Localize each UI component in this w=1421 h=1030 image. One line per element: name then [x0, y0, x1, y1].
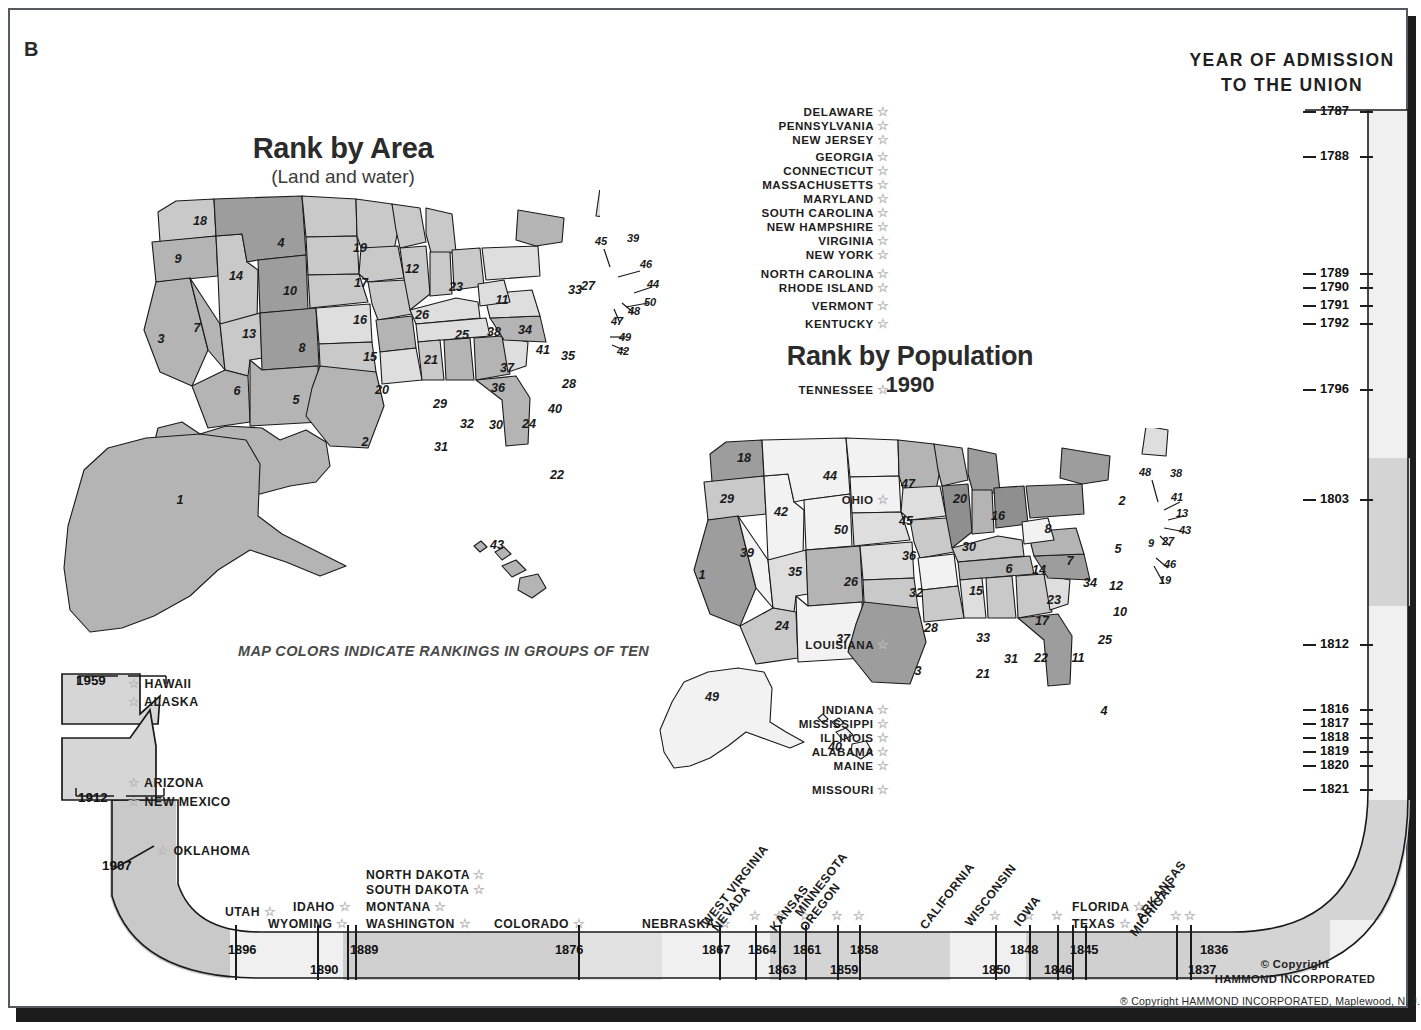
union-admission-year: 1803 — [1320, 491, 1349, 506]
star-icon: ☆ — [877, 298, 890, 313]
bottom-admission-year: 1846 — [1044, 962, 1072, 977]
star-icon: ☆ — [877, 219, 890, 234]
bottom-admission-year: 1859 — [830, 962, 858, 977]
union-tick-left — [1303, 709, 1316, 711]
bottom-state-name: WYOMING ☆ — [268, 916, 349, 931]
union-state-name: NEW YORK ☆ — [806, 247, 890, 262]
union-tick-right — [1360, 156, 1373, 158]
union-tick-right — [1360, 111, 1373, 113]
bottom-state-name: NORTH DAKOTA ☆ — [366, 867, 486, 882]
star-icon: ☆ — [877, 382, 890, 397]
union-admission-year: 1817 — [1320, 715, 1349, 730]
union-state-name: NORTH CAROLINA ☆ — [761, 266, 890, 281]
union-state-name: TENNESSEE ☆ — [798, 382, 890, 397]
union-tick-left — [1303, 389, 1316, 391]
star-icon: ☆ — [877, 104, 890, 119]
bottom-state-name: WASHINGTON ☆ — [366, 916, 471, 931]
union-state-name: SOUTH CAROLINA ☆ — [761, 205, 890, 220]
star-icon: ☆ — [459, 916, 472, 931]
union-tick-right — [1360, 389, 1373, 391]
bottom-admission-year: 1896 — [228, 942, 256, 957]
star-icon: ☆ — [877, 702, 890, 717]
union-tick-right — [1360, 499, 1373, 501]
union-tick-right — [1360, 789, 1373, 791]
star-icon: ☆ — [877, 149, 890, 164]
bottom-divider — [1176, 925, 1178, 980]
union-state-name: GEORGIA ☆ — [815, 149, 890, 164]
union-state-name: NEW JERSEY ☆ — [792, 132, 890, 147]
union-tick-right — [1360, 737, 1373, 739]
union-state-name: OHIO ☆ — [842, 492, 890, 507]
union-state-name: VERMONT ☆ — [812, 298, 890, 313]
union-admission-year: 1816 — [1320, 701, 1349, 716]
union-tick-left — [1303, 499, 1316, 501]
star-icon: ☆ — [749, 908, 762, 923]
union-tick-left — [1303, 305, 1316, 307]
star-icon: ☆ — [877, 637, 890, 652]
union-tick-left — [1303, 111, 1316, 113]
star-icon: ☆ — [434, 899, 447, 914]
union-state-name: VIRGINIA ☆ — [818, 233, 890, 248]
copyright-block: © Copyright HAMMOND INCORPORATED — [1195, 957, 1395, 987]
union-state-name: MAINE ☆ — [834, 758, 890, 773]
star-icon: ☆ — [1184, 908, 1197, 923]
union-tick-right — [1360, 723, 1373, 725]
union-tick-left — [1303, 156, 1316, 158]
union-tick-left — [1303, 273, 1316, 275]
union-tick-right — [1360, 709, 1373, 711]
star-icon: ☆ — [473, 882, 486, 897]
union-tick-right — [1360, 305, 1373, 307]
star-icon: ☆ — [877, 163, 890, 178]
union-admission-year: 1819 — [1320, 743, 1349, 758]
bottom-divider — [1085, 925, 1087, 980]
union-admission-year: 1787 — [1320, 103, 1349, 118]
union-tick-right — [1360, 287, 1373, 289]
union-state-name: ILLINOIS ☆ — [820, 730, 890, 745]
union-state-name: KENTUCKY ☆ — [805, 316, 890, 331]
union-tick-right — [1360, 273, 1373, 275]
union-state-name: ALABAMA ☆ — [812, 744, 890, 759]
bottom-admission-year: 1848 — [1010, 942, 1038, 957]
star-icon: ☆ — [877, 266, 890, 281]
union-state-name: MISSISSIPPI ☆ — [799, 716, 890, 731]
union-tick-left — [1303, 789, 1316, 791]
bottom-state-name: IDAHO ☆ — [293, 899, 351, 914]
union-admission-year: 1792 — [1320, 315, 1349, 330]
copyright-mark: © Copyright — [1195, 957, 1395, 972]
bottom-admission-year: 1863 — [768, 962, 796, 977]
star-icon: ☆ — [877, 177, 890, 192]
union-admission-year: 1788 — [1320, 148, 1349, 163]
bottom-divider — [355, 925, 357, 980]
union-tick-left — [1303, 323, 1316, 325]
star-icon: ☆ — [1051, 908, 1064, 923]
union-tick-left — [1303, 287, 1316, 289]
infographic-page: B Rank by Area (Land and water) Rank by … — [0, 0, 1421, 1030]
union-tick-left — [1303, 723, 1316, 725]
bottom-admission-year: 1867 — [702, 942, 730, 957]
star-icon: ☆ — [877, 716, 890, 731]
star-icon: ☆ — [877, 782, 890, 797]
star-icon: ☆ — [339, 899, 352, 914]
map-plate: B Rank by Area (Land and water) Rank by … — [8, 8, 1408, 1008]
copyright-company: HAMMOND INCORPORATED — [1195, 972, 1395, 987]
star-icon: ☆ — [989, 908, 1002, 923]
star-icon: ☆ — [877, 233, 890, 248]
star-icon: ☆ — [877, 280, 890, 295]
star-icon: ☆ — [1170, 908, 1183, 923]
union-state-name: INDIANA ☆ — [822, 702, 890, 717]
bottom-admission-year: 1890 — [310, 962, 338, 977]
notch-tick-lines — [60, 660, 260, 890]
bottom-admission-year: 1836 — [1200, 942, 1228, 957]
star-icon: ☆ — [877, 492, 890, 507]
bottom-state-name: COLORADO ☆ — [494, 916, 585, 931]
bottom-admission-year: 1861 — [793, 942, 821, 957]
star-icon: ☆ — [877, 118, 890, 133]
union-state-name: DELAWARE ☆ — [804, 104, 890, 119]
union-state-name: MARYLAND ☆ — [803, 191, 890, 206]
union-admission-year: 1789 — [1320, 265, 1349, 280]
union-admission-year: 1820 — [1320, 757, 1349, 772]
star-icon: ☆ — [877, 247, 890, 262]
union-state-name: MASSACHUSETTS ☆ — [762, 177, 890, 192]
union-admission-year: 1812 — [1320, 636, 1349, 651]
bottom-divider — [347, 925, 349, 980]
